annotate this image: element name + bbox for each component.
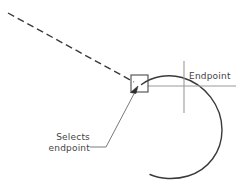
snap-selection-box[interactable] [131,75,148,92]
arc-geometry [142,76,223,179]
selects-endpoint-label-line1: Selects [56,132,90,142]
selects-endpoint-label-line2: endpoint [48,143,90,153]
endpoint-label: Endpoint [189,71,231,81]
cad-diagram: Endpoint Selects endpoint [0,0,242,191]
diagram-canvas: Endpoint Selects endpoint [0,0,242,191]
leader-line [90,90,136,147]
rubber-band-line [8,13,134,82]
